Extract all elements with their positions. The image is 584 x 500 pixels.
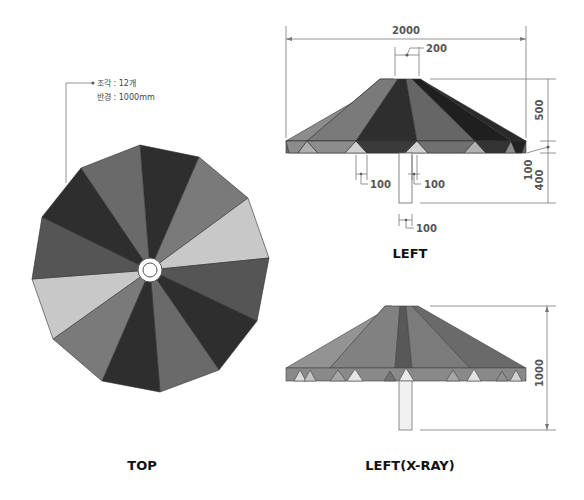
left-view-label: LEFT	[393, 246, 428, 261]
dim-pole-width: 100	[416, 223, 437, 234]
center-hole	[143, 263, 157, 277]
left-view	[286, 79, 526, 203]
pole	[399, 381, 412, 430]
dim-rim-height: 100	[523, 160, 534, 181]
dim-canopy-height: 500	[534, 100, 545, 121]
pole	[399, 153, 412, 203]
top-view-label: TOP	[127, 458, 156, 473]
dim-rim-tri-left: 100	[370, 179, 391, 190]
left-xray-view-label: LEFT(X-RAY)	[365, 458, 454, 473]
radius-note: 반경 : 1000mm	[97, 92, 155, 102]
dim-pole-clearance: 400	[534, 170, 545, 191]
left-xray-view	[286, 306, 526, 430]
dim-rim-tri-center: 100	[424, 179, 445, 190]
pieces-note: 조각 : 12개	[97, 78, 136, 88]
umbrella-drawing: 조각 : 12개 반경 : 1000mm	[0, 0, 584, 500]
top-view	[32, 145, 269, 392]
dim-top-cap: 200	[426, 43, 447, 54]
dim-overall-width: 2000	[392, 25, 420, 36]
dim-total-height: 1000	[534, 359, 545, 387]
